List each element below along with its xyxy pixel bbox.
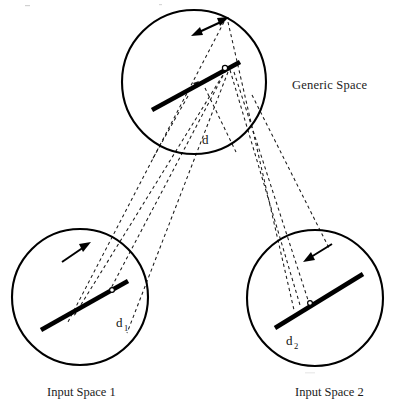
projection-line-generic-input2-c bbox=[234, 72, 308, 300]
generic-space-node-dot bbox=[222, 65, 227, 70]
input-space-2-element-label: d bbox=[286, 333, 293, 348]
input-space-2-element-label-group: d 2 bbox=[286, 333, 298, 351]
projection-line-generic-input1-b bbox=[74, 70, 226, 316]
input-space-1-element-label: d bbox=[116, 315, 123, 330]
input-space-1-vector bbox=[41, 281, 128, 330]
diagram-root: Generic Space Input Space 1 Input Space … bbox=[0, 0, 393, 407]
projection-line-generic-input2-b bbox=[230, 70, 300, 305]
input-space-2-node-dot bbox=[308, 301, 313, 306]
input-space-1-label: Input Space 1 bbox=[47, 385, 116, 399]
generic-element-label: d bbox=[202, 132, 209, 147]
input-space-1-element-label-subscript: 1 bbox=[124, 323, 128, 333]
generic-space-circle bbox=[122, 10, 266, 154]
input-space-2-contents bbox=[275, 244, 363, 328]
input-space-2-arrow-icon bbox=[303, 244, 332, 262]
generic-space-contents bbox=[152, 17, 240, 110]
projection-lines-group bbox=[68, 22, 330, 333]
input-space-2-label: Input Space 2 bbox=[295, 385, 364, 399]
input-space-1-contents bbox=[41, 242, 128, 330]
generic-space-label: Generic Space bbox=[292, 78, 367, 92]
generic-space-double-arrow-icon bbox=[191, 17, 229, 36]
input-space-2-element-label-subscript: 2 bbox=[294, 341, 298, 351]
input-space-1-element-label-group: d 1 bbox=[116, 315, 128, 333]
input-space-2-circle bbox=[247, 230, 383, 366]
projection-line-generic-input2-d bbox=[252, 95, 330, 250]
input-space-2-vector bbox=[275, 274, 363, 328]
scan-artifacts bbox=[25, 4, 315, 374]
input-space-1-arrow-icon bbox=[62, 242, 91, 262]
input-space-1-node-dot bbox=[110, 288, 115, 293]
conceptual-blending-diagram: Generic Space Input Space 1 Input Space … bbox=[0, 0, 393, 407]
